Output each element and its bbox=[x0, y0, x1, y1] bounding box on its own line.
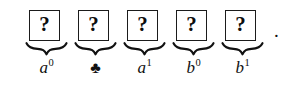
slot-group-2: ? a1 bbox=[123, 0, 172, 85]
slot-label-2: a1 bbox=[123, 59, 166, 76]
boxed-slot-4[interactable]: ? bbox=[225, 10, 256, 41]
boxed-slot-1[interactable]: ? bbox=[78, 10, 109, 41]
slot-row: ? a0 ? ♣ bbox=[0, 0, 292, 85]
slot-group-0: ? a0 bbox=[25, 0, 74, 85]
slot-label-sup-4: 1 bbox=[244, 57, 249, 68]
trailing-period: . bbox=[274, 21, 279, 40]
underbrace-1 bbox=[74, 41, 117, 58]
slot-label-sup-2: 1 bbox=[146, 57, 151, 68]
question-mark-glyph: ? bbox=[186, 14, 197, 35]
slot-group-4: ? b1 bbox=[221, 0, 270, 85]
slot-label-4: b1 bbox=[221, 59, 264, 76]
slot-group-1: ? ♣ bbox=[74, 0, 123, 85]
question-mark-glyph: ? bbox=[235, 14, 246, 35]
slot-label-base-2: a bbox=[137, 58, 146, 77]
slot-label-0: a0 bbox=[25, 59, 68, 76]
slot-label-1: ♣ bbox=[74, 60, 117, 76]
slot-label-base-0: a bbox=[39, 58, 48, 77]
slot-label-base-3: b bbox=[186, 58, 195, 77]
boxed-slot-3[interactable]: ? bbox=[176, 10, 207, 41]
question-mark-glyph: ? bbox=[39, 14, 50, 35]
slot-group-3: ? b0 bbox=[172, 0, 221, 85]
underbrace-2 bbox=[123, 41, 166, 58]
slot-label-3: b0 bbox=[172, 59, 215, 76]
club-suit-icon: ♣ bbox=[90, 59, 101, 76]
question-mark-glyph: ? bbox=[88, 14, 99, 35]
slot-label-base-4: b bbox=[235, 58, 244, 77]
underbrace-4 bbox=[221, 41, 264, 58]
boxed-slot-0[interactable]: ? bbox=[29, 10, 60, 41]
boxed-slot-2[interactable]: ? bbox=[127, 10, 158, 41]
slot-label-sup-3: 0 bbox=[195, 57, 200, 68]
underbrace-0 bbox=[25, 41, 68, 58]
underbrace-3 bbox=[172, 41, 215, 58]
math-expression-figure: ? a0 ? ♣ bbox=[0, 0, 292, 85]
slot-label-sup-0: 0 bbox=[48, 57, 53, 68]
question-mark-glyph: ? bbox=[137, 14, 148, 35]
